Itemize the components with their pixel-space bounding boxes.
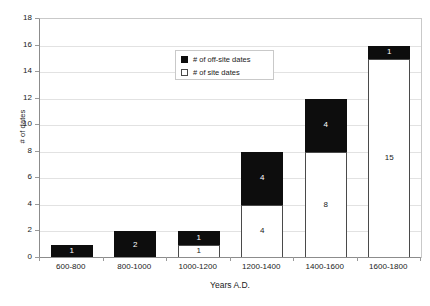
y-tick-label: 8: [8, 147, 32, 155]
bar-segment-value: 4: [324, 121, 328, 129]
bar-segment-value: 2: [133, 241, 137, 249]
bar-group[interactable]: 1: [51, 19, 93, 258]
bar-segment-value: 4: [260, 174, 264, 182]
bar-segment-off-site-dates[interactable]: 4: [305, 99, 347, 152]
bar-segment-off-site-dates[interactable]: 1: [178, 231, 220, 244]
legend-label: # of site dates: [193, 69, 240, 77]
bar-segment-off-site-dates[interactable]: 2: [114, 231, 156, 258]
bar-group[interactable]: 2: [114, 19, 156, 258]
bar-segment-off-site-dates[interactable]: 1: [368, 46, 410, 59]
legend-item-off-site-dates: # of off-site dates: [181, 54, 268, 65]
bar-group[interactable]: 151: [368, 19, 410, 258]
chart-legend: # of off-site dates # of site dates: [175, 50, 274, 80]
gridline: [40, 178, 421, 179]
bar-segment-value: 1: [197, 247, 201, 255]
filled-square-icon: [181, 56, 188, 63]
bar-segment-value: 1: [387, 48, 391, 56]
y-tick-label: 4: [8, 200, 32, 208]
y-tick-label: 2: [8, 226, 32, 234]
bar-segment-site-dates[interactable]: 15: [368, 59, 410, 258]
bar-segment-value: 1: [197, 234, 201, 242]
gridline: [40, 125, 421, 126]
x-tick-label: 600-800: [39, 262, 103, 271]
legend-label: # of off-site dates: [193, 56, 250, 64]
y-tick-label: 6: [8, 173, 32, 181]
x-tick-mark: [103, 257, 104, 261]
x-tick-label: 800-1000: [103, 262, 167, 271]
x-axis-title: Years A.D.: [39, 280, 421, 290]
x-tick-mark: [39, 257, 40, 261]
bar-group[interactable]: 84: [305, 19, 347, 258]
stacked-bar-chart: # of dates 024681012141618 12114484151 6…: [0, 0, 430, 306]
gridline: [40, 99, 421, 100]
y-tick-label: 18: [8, 14, 32, 22]
bar-segment-site-dates[interactable]: 8: [305, 152, 347, 258]
stacked-bar[interactable]: 2: [114, 19, 156, 258]
gridline: [40, 152, 421, 153]
gridline: [40, 46, 421, 47]
x-tick-mark: [230, 257, 231, 261]
y-tick-label: 16: [8, 41, 32, 49]
x-tick-label: 1000-1200: [166, 262, 230, 271]
y-tick-label: 10: [8, 120, 32, 128]
stacked-bar[interactable]: 151: [368, 19, 410, 258]
bar-segment-value: 1: [70, 247, 74, 255]
bar-segment-off-site-dates[interactable]: 1: [51, 245, 93, 258]
gridline: [40, 205, 421, 206]
x-tick-mark: [357, 257, 358, 261]
x-tick-mark: [420, 257, 421, 261]
x-tick-mark: [166, 257, 167, 261]
bar-segment-site-dates[interactable]: 4: [241, 205, 283, 258]
y-tick-label: 12: [8, 94, 32, 102]
stacked-bar[interactable]: 1: [51, 19, 93, 258]
x-tick-label: 1600-1800: [357, 262, 421, 271]
bar-segment-value: 4: [260, 227, 264, 235]
bar-segment-off-site-dates[interactable]: 4: [241, 152, 283, 205]
bar-segment-value: 15: [385, 154, 394, 162]
y-tick-label: 14: [8, 67, 32, 75]
gridline: [40, 231, 421, 232]
bar-segment-value: 8: [324, 201, 328, 209]
legend-item-site-dates: # of site dates: [181, 67, 268, 78]
x-tick-label: 1200-1400: [230, 262, 294, 271]
y-tick-label: 0: [8, 253, 32, 261]
bar-segment-site-dates[interactable]: 1: [178, 245, 220, 258]
x-tick-mark: [293, 257, 294, 261]
x-tick-label: 1400-1600: [293, 262, 357, 271]
empty-square-icon: [181, 69, 188, 76]
stacked-bar[interactable]: 84: [305, 19, 347, 258]
